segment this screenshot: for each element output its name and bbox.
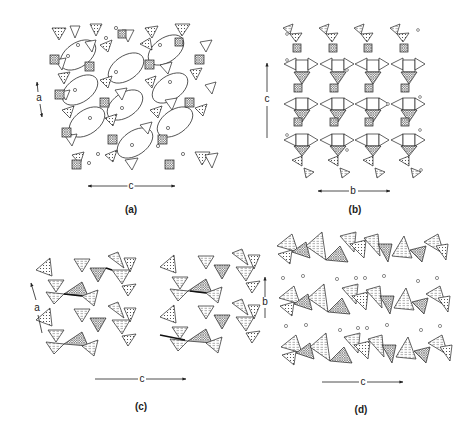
panel-d: b c (d) (0, 0, 461, 432)
axis-label-b: b (261, 297, 269, 307)
axis-label-c: c (360, 377, 367, 387)
panel-d-structure (0, 0, 461, 432)
caption-d: (d) (355, 404, 368, 415)
